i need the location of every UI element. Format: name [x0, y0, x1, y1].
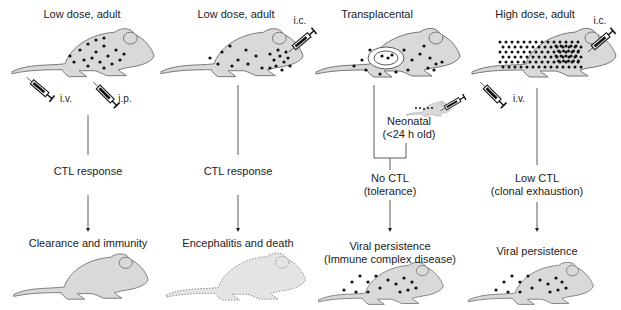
- virus-dot: [532, 56, 535, 59]
- virus-dot: [510, 274, 513, 277]
- virus-dot: [556, 66, 559, 69]
- virus-dot: [571, 41, 574, 44]
- virus-dot: [268, 66, 271, 69]
- virus-dot: [406, 288, 409, 291]
- virus-dot: [228, 44, 231, 47]
- virus-dot: [394, 282, 397, 285]
- virus-dot: [350, 280, 353, 283]
- virus-dot: [72, 60, 75, 63]
- virus-dot: [94, 38, 97, 41]
- virus-dot: [564, 286, 567, 289]
- virus-dot: [553, 61, 556, 64]
- virus-dot: [518, 290, 521, 293]
- virus-dot: [555, 55, 558, 58]
- virus-dot: [352, 64, 355, 67]
- virus-dot: [360, 58, 363, 61]
- virus-dot: [565, 41, 568, 44]
- virus-dot: [520, 46, 523, 49]
- virus-dot: [368, 48, 371, 51]
- virus-dot: [246, 62, 249, 65]
- virus-dot: [577, 60, 580, 63]
- outcome-mouse-dead: [166, 253, 305, 300]
- virus-dot: [511, 61, 514, 64]
- syringe-icon-ip: [90, 79, 119, 108]
- virus-dot: [550, 46, 553, 49]
- virus-dot: [94, 50, 97, 53]
- virus-dot: [114, 48, 117, 51]
- virus-dot: [523, 41, 526, 44]
- virus-dot: [358, 274, 361, 277]
- virus-dot: [98, 60, 101, 63]
- virus-dot: [570, 55, 573, 58]
- virus-dot: [535, 41, 538, 44]
- virus-dot: [418, 52, 421, 55]
- virus-dot: [518, 280, 521, 283]
- virus-dot: [354, 290, 357, 293]
- virus-dot: [560, 45, 563, 48]
- virus-dot: [520, 66, 523, 69]
- virus-dot: [502, 46, 505, 49]
- virus-dot: [502, 66, 505, 69]
- virus-dot: [502, 56, 505, 59]
- virus-dot: [565, 55, 568, 58]
- virus-dot: [236, 58, 239, 61]
- virus-dot: [278, 54, 281, 57]
- virus-dot: [380, 54, 383, 57]
- virus-dot: [502, 280, 505, 283]
- virus-dot: [78, 48, 81, 51]
- virus-dot: [286, 56, 289, 59]
- virus-dot: [254, 54, 257, 57]
- neonatal-age-label: (<24 h old): [383, 128, 436, 141]
- virus-dot: [523, 61, 526, 64]
- virus-dot: [414, 286, 417, 289]
- virus-dot: [520, 56, 523, 59]
- virus-dot: [530, 286, 533, 289]
- virus-dot: [572, 50, 575, 53]
- virus-dot: [514, 46, 517, 49]
- virus-dot: [102, 66, 105, 69]
- virus-dot: [505, 41, 508, 44]
- virus-dot: [378, 286, 381, 289]
- virus-dot: [505, 61, 508, 64]
- outcome-mouse-persistent: [468, 262, 593, 304]
- virus-dot: [506, 290, 509, 293]
- column-heading: Transplacental: [341, 8, 413, 21]
- virus-dot: [390, 53, 393, 56]
- virus-dot: [398, 290, 401, 293]
- virus-dot: [529, 41, 532, 44]
- virus-dot: [220, 50, 223, 53]
- diagram-canvas: [0, 0, 621, 310]
- virus-dot: [364, 68, 367, 71]
- virus-dot: [544, 66, 547, 69]
- virus-dot: [505, 51, 508, 54]
- virus-dot: [575, 55, 578, 58]
- virus-dot: [546, 282, 549, 285]
- virus-dot: [419, 107, 421, 109]
- virus-dot: [499, 51, 502, 54]
- virus-dot: [550, 66, 553, 69]
- virus-dot: [402, 276, 405, 279]
- virus-dot: [494, 288, 497, 291]
- virus-dot: [378, 72, 381, 75]
- virus-dot: [342, 288, 345, 291]
- virus-dot: [86, 42, 89, 45]
- virus-dot: [434, 62, 437, 65]
- virus-dot: [560, 55, 563, 58]
- virus-dot: [550, 56, 553, 59]
- virus-dot: [547, 51, 550, 54]
- virus-dot: [532, 66, 535, 69]
- virus-dot: [554, 276, 557, 279]
- virus-dot: [410, 280, 413, 283]
- outcome-label: Viral persistence: [496, 245, 577, 258]
- virus-dot: [570, 45, 573, 48]
- outcome-sublabel: (Immune complex disease): [324, 253, 456, 266]
- virus-dot: [517, 41, 520, 44]
- route-label-ic: i.c.: [294, 14, 307, 27]
- virus-dot: [68, 54, 71, 57]
- syringe-icon-iv: [24, 74, 55, 102]
- response-label: CTL response: [54, 165, 123, 178]
- virus-dot: [526, 56, 529, 59]
- column-heading: High dose, adult: [495, 8, 575, 21]
- virus-dot: [122, 52, 125, 55]
- neonatal-label: Neonatal: [387, 115, 431, 128]
